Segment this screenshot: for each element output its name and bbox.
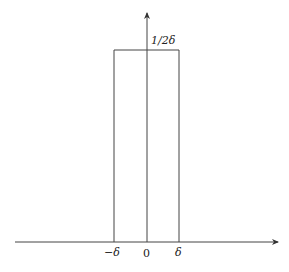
height-label: 1/2δ: [151, 34, 175, 47]
diagram-canvas: 1/2δ −δ 0 δ: [0, 0, 289, 272]
pulse-plot: [0, 0, 289, 272]
tick-label-delta: δ: [175, 246, 182, 259]
tick-label-zero: 0: [143, 247, 150, 260]
tick-label-neg-delta: −δ: [104, 246, 120, 259]
